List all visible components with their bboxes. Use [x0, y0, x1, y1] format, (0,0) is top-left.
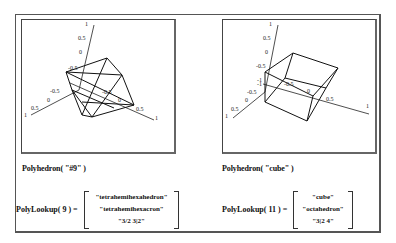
polylookup-result-left: "tetrahemihexahedron" "tetrahemihexacron… [84, 191, 179, 229]
tetrahemihexahedron-wireframe: 1 0.5 0 -0.5 -0.5 0 0.5 1 -0.5 0 0.5 1 [22, 20, 175, 153]
lookup-value: "tetrahemihexacron" [84, 205, 179, 213]
polyhedron-caption-right: Polyhedron( "cube" ) [222, 164, 294, 173]
polyhedron-plot-left[interactable]: 1 0.5 0 -0.5 -0.5 0 0.5 1 -0.5 0 0.5 1 [21, 19, 176, 154]
z-tick: 0.5 [263, 35, 271, 41]
x-tick: -1 [257, 81, 262, 87]
z-tick: -0.5 [256, 63, 266, 69]
z-tick: 0.5 [78, 35, 86, 41]
y-tick: 0 [245, 97, 248, 103]
y-tick: 1 [24, 112, 27, 118]
x-tick: 1 [366, 103, 369, 109]
lookup-value: "3|2 4" [293, 217, 353, 225]
z-tick: 1 [269, 21, 272, 27]
z-tick: 0 [265, 49, 268, 55]
lookup-value: "3/2 3|2" [84, 217, 179, 225]
lookup-value: "tetrahemihexahedron" [84, 193, 179, 201]
lookup-value: "octahedron" [293, 205, 353, 213]
y-tick: 0.5 [31, 105, 39, 111]
polylookup-result-right: "cube" "octahedron" "3|2 4" [293, 191, 353, 229]
cube-wireframe: 1 0.5 0 -0.5 -1 -0.5 0 0.5 1 -1 -0.5 0 0… [223, 20, 376, 153]
x-tick: 1 [155, 115, 158, 121]
y-tick: 1 [225, 113, 228, 119]
z-tick: 1 [85, 21, 88, 27]
polylookup-label-left: PolyLookup( 9 ) = [16, 205, 78, 214]
polyhedron-plot-right[interactable]: 1 0.5 0 -0.5 -1 -0.5 0 0.5 1 -1 -0.5 0 0… [222, 19, 377, 154]
y-tick: -0.5 [247, 89, 257, 95]
x-tick: 0.5 [136, 106, 144, 112]
polyhedron-caption-left: Polyhedron( "#9" ) [22, 164, 86, 173]
y-tick: 0.5 [231, 106, 239, 112]
x-tick: 0.5 [326, 96, 334, 102]
y-tick: -0.5 [50, 88, 60, 94]
polylookup-label-right: PolyLookup( 11 ) = [222, 205, 287, 214]
y-tick: 0 [47, 97, 50, 103]
lookup-value: "cube" [293, 193, 353, 201]
z-tick: 0 [79, 49, 82, 55]
